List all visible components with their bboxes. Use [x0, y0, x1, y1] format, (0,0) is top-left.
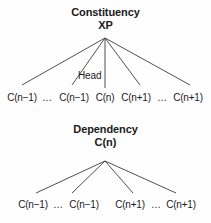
dependency-edge: [105, 161, 133, 193]
dependency-title-block: Dependency C(n): [0, 123, 211, 149]
leaf-label: C(n−1): [7, 92, 37, 103]
leaf-ellipsis: …: [151, 199, 161, 210]
leaf-label: C(n+1): [166, 199, 196, 210]
dependency-leaf-row: C(n−1)…C(n−1)C(n+1)…C(n+1): [0, 199, 211, 213]
tree-edges-layer: [0, 0, 211, 223]
dependency-edge: [72, 161, 105, 193]
dependency-edge: [105, 161, 176, 193]
leaf-label: C(n+1): [121, 92, 151, 103]
constituency-root-label: XP: [0, 19, 211, 32]
linguistic-tree-figure: Constituency XP Head C(n−1)…C(n−1)C(n)C(…: [0, 0, 211, 223]
constituency-edge: [105, 38, 140, 85]
leaf-label: C(n−1): [59, 92, 89, 103]
leaf-ellipsis: …: [157, 92, 167, 103]
constituency-edge: [105, 38, 190, 85]
leaf-ellipsis: …: [42, 92, 52, 103]
constituency-leaf-row: C(n−1)…C(n−1)C(n)C(n+1)…C(n+1): [0, 92, 211, 106]
leaf-label: C(n+1): [115, 199, 145, 210]
leaf-ellipsis: …: [53, 199, 63, 210]
dependency-edge: [36, 161, 105, 193]
dependency-title: Dependency: [0, 123, 211, 136]
leaf-label: C(n−1): [18, 199, 48, 210]
dependency-root-label: C(n): [0, 136, 211, 149]
leaf-label: C(n+1): [173, 92, 203, 103]
leaf-label: C(n−1): [69, 199, 99, 210]
constituency-title-block: Constituency XP: [0, 6, 211, 32]
constituency-title: Constituency: [0, 6, 211, 19]
leaf-label: C(n): [96, 92, 115, 103]
head-label: Head: [78, 70, 102, 81]
